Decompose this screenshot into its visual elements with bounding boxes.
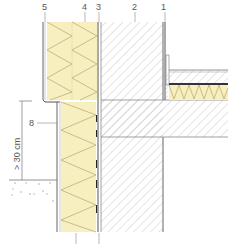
label-1: 1 [161, 2, 166, 12]
label-4: 4 [82, 2, 87, 12]
upper-insulation [43, 22, 97, 102]
label-5: 5 [42, 2, 47, 12]
construction-detail-drawing: > 30 cm 5 4 3 2 1 8 [0, 0, 228, 244]
label-8: 8 [29, 118, 34, 128]
ground-soil [9, 180, 57, 202]
perimeter-insulation [57, 102, 96, 232]
interior-finish-layer [165, 22, 169, 100]
label-3: 3 [96, 2, 101, 12]
dimension-label: > 30 cm [12, 138, 22, 170]
floor-slab [101, 100, 228, 137]
height-dimension: > 30 cm [12, 101, 32, 180]
floor-buildup [169, 70, 228, 100]
label-2: 2 [132, 2, 137, 12]
